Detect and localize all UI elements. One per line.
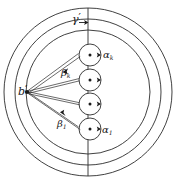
node-2-dot xyxy=(89,79,92,82)
node-alpha-1-dot xyxy=(89,128,92,131)
node-3-dot xyxy=(89,103,92,106)
label-beta-1-subscript: 1 xyxy=(63,123,67,130)
label-b-prime: b′ xyxy=(18,84,27,97)
label-gamma-prime-base: γ xyxy=(72,13,79,26)
edge-3-lower xyxy=(28,94,79,105)
label-beta-1: β1 xyxy=(57,119,67,130)
node-alpha-k-dot xyxy=(89,54,92,57)
node-circles-group xyxy=(79,44,101,140)
label-b-prime-mark: ′ xyxy=(25,83,27,95)
label-beta-k: βk xyxy=(61,68,71,79)
label-beta-k-subscript: k xyxy=(67,72,71,79)
label-alpha-k-subscript: k xyxy=(110,54,114,61)
label-alpha-1: α1 xyxy=(102,125,113,136)
label-gamma-prime: γ′ xyxy=(72,12,81,25)
figure-canvas: γ′ αk α1 βk β1 b′ xyxy=(0,0,177,183)
beta-edges-group xyxy=(28,54,81,130)
label-alpha-k-base: α xyxy=(103,49,110,60)
label-gamma-prime-mark: ′ xyxy=(79,11,81,23)
label-alpha-k: αk xyxy=(103,50,114,61)
edge-2-lower xyxy=(28,81,79,94)
label-alpha-1-base: α xyxy=(102,124,109,135)
label-b-prime-base: b xyxy=(18,85,25,98)
beta-k-edge-lower xyxy=(29,57,81,94)
label-alpha-1-subscript: 1 xyxy=(109,129,113,136)
beta-1-arrowhead xyxy=(60,109,67,116)
node-arrowheads-group xyxy=(97,52,101,131)
